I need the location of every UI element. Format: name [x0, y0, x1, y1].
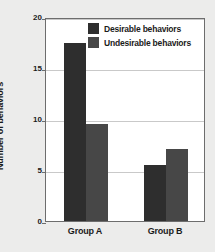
y-axis-tick-mark: [42, 223, 46, 224]
y-axis-tick-label: 0: [26, 218, 42, 226]
bar: [144, 165, 166, 221]
bar: [86, 124, 108, 221]
legend-swatch-icon: [88, 37, 99, 48]
bars-layer: [46, 19, 204, 221]
y-axis-tick-label: 5: [26, 167, 42, 175]
legend-swatch-icon: [88, 23, 99, 34]
x-axis-tick-label: Group A: [68, 226, 102, 236]
x-axis-tick-label: Group B: [148, 226, 183, 236]
y-axis-tick-label: 10: [26, 116, 42, 124]
legend-item-label: Desirable behaviors: [104, 24, 181, 34]
legend-item: Desirable behaviors: [88, 23, 191, 34]
chart-legend: Desirable behaviorsUndesirable behaviors: [88, 23, 191, 48]
legend-item-label: Undesirable behaviors: [104, 38, 191, 48]
plot-area: [45, 18, 205, 222]
y-axis-tick-label: 15: [26, 65, 42, 73]
y-axis-title: Number of behaviors: [0, 0, 24, 252]
x-axis-tick-labels: Group AGroup B: [45, 226, 205, 242]
bar: [166, 149, 188, 221]
y-axis-tick-label: 20: [26, 14, 42, 22]
legend-item: Undesirable behaviors: [88, 37, 191, 48]
bar: [64, 43, 86, 222]
bar-chart-figure: Number of behaviors 05101520 Desirable b…: [0, 0, 215, 252]
y-axis-tick-labels: 05101520: [22, 18, 42, 222]
